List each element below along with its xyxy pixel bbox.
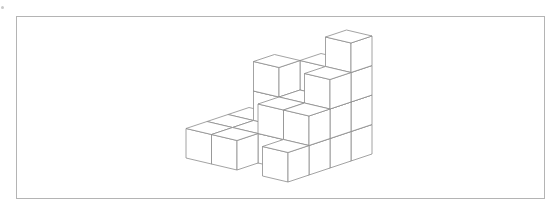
cube-stack-diagram bbox=[0, 0, 558, 210]
